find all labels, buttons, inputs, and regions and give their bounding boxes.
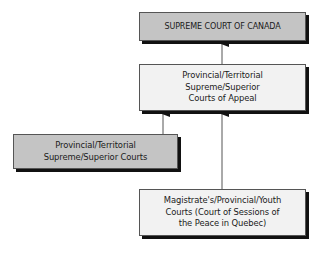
magistrate-courts-label: Magistrate's/Provincial/Youth Courts (Co… — [164, 195, 281, 230]
courts-of-appeal-box: Provincial/Territorial Supreme/Superior … — [139, 64, 306, 111]
supreme-court-of-canada-box: SUPREME COURT OF CANADA — [139, 12, 306, 41]
supreme-court-of-canada-label: SUPREME COURT OF CANADA — [164, 21, 280, 33]
courts-of-appeal-label: Provincial/Territorial Supreme/Superior … — [182, 70, 262, 105]
superior-courts-box: Provincial/Territorial Supreme/Superior … — [13, 134, 178, 169]
superior-courts-label: Provincial/Territorial Supreme/Superior … — [44, 140, 148, 163]
magistrate-courts-box: Magistrate's/Provincial/Youth Courts (Co… — [139, 189, 306, 236]
